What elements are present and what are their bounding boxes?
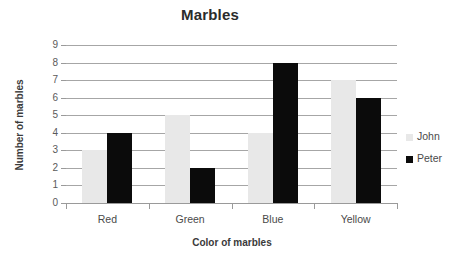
bar-peter-green [190,168,215,203]
x-axis-title: Color of marbles [66,237,398,248]
y-axis-tick-label: 2 [44,163,58,173]
bar-john-green [165,115,190,203]
y-axis-tick-label: 9 [44,40,58,50]
y-axis-tick-label: 7 [44,75,58,85]
x-axis-tick [149,203,150,209]
gridline [66,45,397,46]
chart-legend: JohnPeter [406,130,476,174]
y-axis-tick-label: 6 [44,93,58,103]
bar-john-blue [248,133,273,203]
x-axis-tick [314,203,315,209]
bar-chart: Marbles Number of marbles 9876543210 Red… [0,0,476,259]
gridline [66,63,397,64]
y-axis-tick-label: 4 [44,128,58,138]
bar-peter-yellow [356,98,381,203]
bar-peter-blue [273,63,298,203]
chart-title: Marbles [0,6,420,23]
plot-area [66,45,397,203]
x-axis-tick [66,203,67,209]
legend-item-peter: Peter [406,152,476,174]
legend-label: Peter [417,152,442,164]
bar-john-red [82,150,107,203]
y-axis-tick-label: 8 [44,58,58,68]
legend-label: John [417,130,440,142]
y-axis-title: Number of marbles [14,62,28,188]
legend-swatch-icon [406,134,413,141]
bar-peter-red [107,133,132,203]
y-axis-tick-label: 5 [44,110,58,120]
legend-swatch-icon [406,156,413,163]
bar-john-yellow [331,80,356,203]
x-axis-tick-label-red: Red [66,213,148,225]
x-axis-tick [397,203,398,209]
y-axis-tick-label: 1 [44,180,58,190]
y-axis-tick-labels: 9876543210 [44,0,58,259]
x-axis-tick-label-blue: Blue [232,213,314,225]
x-axis-tick-label-yellow: Yellow [315,213,397,225]
legend-item-john: John [406,130,476,152]
x-axis-tick [232,203,233,209]
x-axis-tick-label-green: Green [149,213,231,225]
y-axis-tick-label: 3 [44,145,58,155]
y-axis-tick-label: 0 [44,198,58,208]
